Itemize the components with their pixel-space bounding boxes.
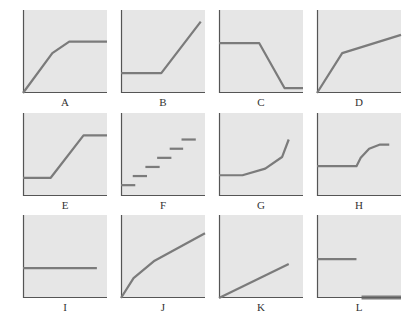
graph-panel-i [23, 215, 107, 298]
graph-panel-h [317, 113, 401, 196]
graph-label-e: E [23, 199, 107, 211]
graph-panel-d [317, 10, 401, 93]
graph-label-d: D [317, 96, 401, 108]
plot-area [317, 10, 401, 93]
plot-area [317, 113, 401, 196]
graph-label-b: B [121, 96, 205, 108]
graph-label-j: J [121, 301, 205, 313]
graph-panel-f [121, 113, 205, 196]
graph-label-h: H [317, 199, 401, 211]
graph-label-f: F [121, 199, 205, 211]
plot-area [23, 113, 107, 196]
plot-area [23, 215, 107, 298]
graph-l [317, 215, 401, 298]
graph-g [219, 113, 303, 196]
plot-area [121, 113, 205, 196]
plot-area [23, 10, 107, 93]
graph-panel-k [219, 215, 303, 298]
graph-c [219, 10, 303, 93]
graph-panel-c [219, 10, 303, 93]
graph-j [121, 215, 205, 298]
graph-a [23, 10, 107, 93]
graph-label-c: C [219, 96, 303, 108]
graph-label-i: I [23, 301, 107, 313]
graph-label-a: A [23, 96, 107, 108]
graph-b [121, 10, 205, 93]
graph-h [317, 113, 401, 196]
graph-label-l: L [317, 301, 401, 313]
plot-area [317, 215, 401, 298]
graph-panel-l [317, 215, 401, 298]
graph-label-g: G [219, 199, 303, 211]
graph-panel-g [219, 113, 303, 196]
graph-k [219, 215, 303, 298]
graph-panel-j [121, 215, 205, 298]
graph-panel-a [23, 10, 107, 93]
graph-label-k: K [219, 301, 303, 313]
plot-area [121, 10, 205, 93]
plot-area [219, 113, 303, 196]
plot-area [219, 10, 303, 93]
graph-d [317, 10, 401, 93]
graph-f [121, 113, 205, 196]
graph-panel-b [121, 10, 205, 93]
graph-panel-e [23, 113, 107, 196]
graph-e [23, 113, 107, 196]
graph-i [23, 215, 107, 298]
plot-area [219, 215, 303, 298]
